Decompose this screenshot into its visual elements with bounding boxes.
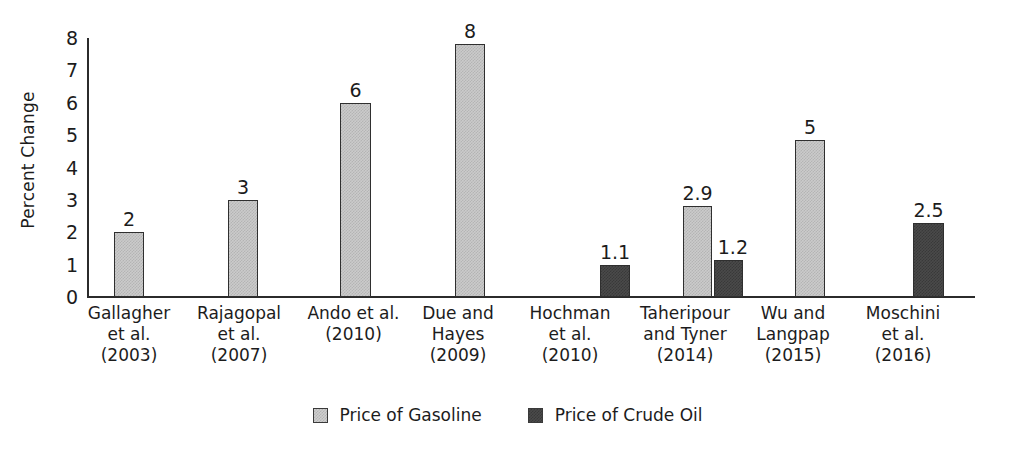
- y-tick-label: 4: [52, 158, 78, 177]
- category-label-line: (2007): [179, 345, 299, 366]
- y-tick-label: 5: [52, 126, 78, 145]
- legend-item[interactable]: Price of Gasoline: [313, 405, 482, 425]
- category-label-line: Langpap: [733, 324, 853, 345]
- category-label-line: et al.: [69, 324, 189, 345]
- category-label-line: Due and: [399, 303, 517, 324]
- bar-value-label: 1.1: [600, 243, 630, 262]
- category-label-line: Hayes: [399, 324, 517, 345]
- y-tick-label: 6: [52, 93, 78, 112]
- bar: 3: [228, 200, 258, 297]
- category-label-line: et al.: [843, 324, 963, 345]
- category-label-line: et al.: [510, 324, 630, 345]
- category-label-line: Moschini: [843, 303, 963, 324]
- category-label: Rajagopalet al.(2007): [179, 303, 299, 366]
- y-tick-label: 2: [52, 223, 78, 242]
- category-label-line: (2014): [619, 345, 751, 366]
- bar: 1.2: [714, 260, 743, 297]
- bar: 2.5: [913, 223, 944, 297]
- category-label-line: et al.: [179, 324, 299, 345]
- y-axis-title: Percent Change: [18, 70, 38, 250]
- category-label: Gallagheret al.(2003): [69, 303, 189, 366]
- category-label-line: (2003): [69, 345, 189, 366]
- category-label-line: (2015): [733, 345, 853, 366]
- bar-value-label: 2: [123, 210, 135, 229]
- legend-swatch-icon: [528, 408, 543, 423]
- category-label-line: (2016): [843, 345, 963, 366]
- y-tick-label: 3: [52, 190, 78, 209]
- bar-value-label: 5: [804, 118, 816, 137]
- bar-value-label: 3: [237, 178, 249, 197]
- category-label: Ando et al.(2010): [291, 303, 416, 345]
- bar-value-label: 1.2: [718, 238, 748, 257]
- bar-value-label: 2.5: [913, 201, 943, 220]
- category-label-line: Ando et al.: [291, 303, 416, 324]
- category-label: Wu andLangpap(2015): [733, 303, 853, 366]
- category-label-line: Rajagopal: [179, 303, 299, 324]
- bar: 6: [340, 103, 371, 297]
- category-label-line: and Tyner: [619, 324, 751, 345]
- y-tick-label: 8: [52, 29, 78, 48]
- bar: 2: [114, 232, 144, 297]
- legend-label: Price of Crude Oil: [555, 405, 703, 425]
- category-label: Moschiniet al.(2016): [843, 303, 963, 366]
- y-tick-label: 1: [52, 255, 78, 274]
- bar: 1.1: [600, 265, 630, 297]
- legend-label: Price of Gasoline: [340, 405, 482, 425]
- legend-item[interactable]: Price of Crude Oil: [528, 405, 703, 425]
- legend-swatch-icon: [313, 408, 328, 423]
- x-axis-category-labels: Gallagheret al.(2003)Rajagopalet al.(200…: [87, 303, 975, 383]
- category-label-line: (2009): [399, 345, 517, 366]
- category-label-line: Gallagher: [69, 303, 189, 324]
- bar: 2.9: [683, 206, 712, 297]
- bar-chart: Percent Change 012345678 23681.12.91.252…: [0, 0, 1015, 453]
- bar: 5: [795, 140, 825, 297]
- category-label-line: (2010): [510, 345, 630, 366]
- bar-value-label: 8: [464, 22, 476, 41]
- category-label: Due andHayes(2009): [399, 303, 517, 366]
- category-label: Taheripourand Tyner(2014): [619, 303, 751, 366]
- category-label-line: Wu and: [733, 303, 853, 324]
- category-label-line: (2010): [291, 324, 416, 345]
- bar-value-label: 6: [349, 81, 361, 100]
- chart-legend: Price of GasolinePrice of Crude Oil: [0, 405, 1015, 425]
- y-tick-label: 7: [52, 61, 78, 80]
- bar: 8: [455, 44, 485, 297]
- category-label: Hochmanet al.(2010): [510, 303, 630, 366]
- category-label-line: Taheripour: [619, 303, 751, 324]
- category-label-line: Hochman: [510, 303, 630, 324]
- plot-area: 23681.12.91.252.5: [87, 38, 975, 297]
- y-axis-tick-labels: 012345678: [48, 38, 78, 297]
- bar-value-label: 2.9: [682, 184, 712, 203]
